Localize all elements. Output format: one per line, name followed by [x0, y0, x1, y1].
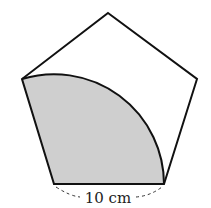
side-length-label: 10 cm: [85, 189, 131, 207]
pentagon-diagram: 10 cm: [0, 0, 211, 208]
shaded-sector: [22, 74, 164, 184]
